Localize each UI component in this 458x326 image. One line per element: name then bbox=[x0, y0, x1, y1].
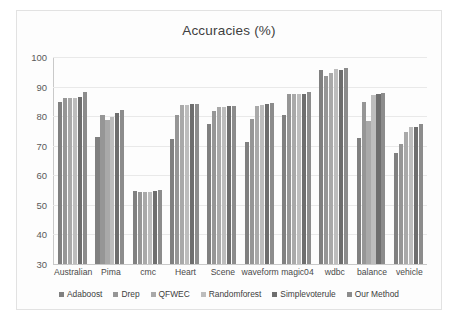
legend-swatch-icon bbox=[347, 292, 352, 297]
bar bbox=[357, 138, 361, 264]
bar bbox=[232, 106, 236, 264]
bar bbox=[344, 68, 348, 264]
legend-label: Simplevoterule bbox=[280, 289, 335, 299]
legend-label: Randomforest bbox=[209, 289, 262, 299]
bar bbox=[371, 95, 375, 264]
legend-item-drep[interactable]: Drep bbox=[113, 289, 139, 299]
bar bbox=[58, 102, 62, 264]
bar bbox=[414, 127, 418, 264]
bar bbox=[138, 192, 142, 264]
legend-swatch-icon bbox=[151, 292, 156, 297]
bar-group-wdbc bbox=[315, 57, 352, 264]
gridline-30: 30 bbox=[53, 264, 427, 265]
bar bbox=[297, 94, 301, 264]
x-label-cmc: cmc bbox=[130, 267, 167, 277]
legend-item-qfwec[interactable]: QFWEC bbox=[151, 289, 190, 299]
bar-groups bbox=[54, 57, 427, 264]
bar bbox=[366, 121, 370, 264]
y-tick-label-70: 70 bbox=[36, 140, 47, 151]
legend-label: Adaboost bbox=[67, 289, 102, 299]
bar bbox=[302, 94, 306, 264]
bar bbox=[83, 92, 87, 264]
bar bbox=[399, 144, 403, 264]
bar-group-heart bbox=[166, 57, 203, 264]
bar bbox=[73, 98, 77, 264]
chart-legend: AdaboostDrepQFWECRandomforestSimplevoter… bbox=[17, 289, 441, 299]
bar bbox=[153, 191, 157, 264]
bar bbox=[217, 107, 221, 264]
x-label-pima: Pima bbox=[92, 267, 129, 277]
legend-label: QFWEC bbox=[159, 289, 190, 299]
x-label-balance: balance bbox=[353, 267, 390, 277]
bar bbox=[175, 115, 179, 264]
bar bbox=[329, 73, 333, 264]
bar bbox=[381, 93, 385, 264]
legend-label: Our Method bbox=[355, 289, 399, 299]
y-tick-label-30: 30 bbox=[36, 259, 47, 270]
bar bbox=[143, 192, 147, 264]
bar bbox=[270, 103, 274, 264]
bar bbox=[190, 104, 194, 264]
legend-item-randomforest[interactable]: Randomforest bbox=[201, 289, 262, 299]
bar bbox=[105, 120, 109, 264]
bar bbox=[282, 115, 286, 264]
bar-group-pima bbox=[91, 57, 128, 264]
y-tick-label-100: 100 bbox=[31, 52, 47, 63]
bar bbox=[212, 111, 216, 264]
bar bbox=[68, 98, 72, 264]
bar bbox=[409, 127, 413, 264]
bar-group-australian bbox=[54, 57, 91, 264]
bar-group-balance bbox=[352, 57, 389, 264]
bar bbox=[250, 119, 254, 264]
bar bbox=[334, 69, 338, 264]
legend-swatch-icon bbox=[113, 292, 118, 297]
bar bbox=[78, 97, 82, 264]
x-label-heart: Heart bbox=[167, 267, 204, 277]
chart-title: Accuracies (%) bbox=[17, 23, 441, 38]
legend-swatch-icon bbox=[59, 292, 64, 297]
legend-item-adaboost[interactable]: Adaboost bbox=[59, 289, 102, 299]
bar bbox=[207, 124, 211, 264]
y-tick-label-60: 60 bbox=[36, 170, 47, 181]
bar bbox=[95, 137, 99, 264]
bar bbox=[133, 191, 137, 264]
bar bbox=[319, 70, 323, 264]
x-label-magic04: magic04 bbox=[279, 267, 316, 277]
bar bbox=[307, 92, 311, 264]
y-tick-label-50: 50 bbox=[36, 199, 47, 210]
bar bbox=[222, 107, 226, 264]
x-label-waveform: waveform bbox=[241, 267, 278, 277]
x-label-vehicle: vehicle bbox=[391, 267, 428, 277]
bar bbox=[394, 153, 398, 264]
bar bbox=[419, 124, 423, 264]
plot-area: 10090807060504030 bbox=[53, 57, 427, 264]
bar bbox=[324, 76, 328, 264]
bar-group-vehicle bbox=[390, 57, 427, 264]
bar bbox=[292, 94, 296, 264]
bar bbox=[110, 117, 114, 264]
bar bbox=[120, 110, 124, 264]
bar-group-waveform bbox=[240, 57, 277, 264]
bar-group-magic04 bbox=[278, 57, 315, 264]
bar bbox=[227, 106, 231, 264]
bar bbox=[260, 105, 264, 264]
x-label-australian: Australian bbox=[54, 267, 92, 277]
y-tick-label-90: 90 bbox=[36, 81, 47, 92]
chart-container: Accuracies (%) 10090807060504030 Austral… bbox=[16, 10, 442, 310]
bar bbox=[185, 105, 189, 264]
x-label-scene: Scene bbox=[204, 267, 241, 277]
legend-swatch-icon bbox=[272, 292, 277, 297]
bar bbox=[255, 106, 259, 264]
bar bbox=[265, 104, 269, 264]
bar bbox=[339, 70, 343, 264]
bar bbox=[170, 139, 174, 264]
bar bbox=[362, 102, 366, 264]
legend-item-simplevoterule[interactable]: Simplevoterule bbox=[272, 289, 335, 299]
bar bbox=[100, 115, 104, 264]
y-tick-label-80: 80 bbox=[36, 111, 47, 122]
bar-group-cmc bbox=[129, 57, 166, 264]
bar bbox=[245, 142, 249, 264]
legend-label: Drep bbox=[121, 289, 139, 299]
x-axis-labels: AustralianPimacmcHeartScenewaveformmagic… bbox=[54, 267, 428, 277]
legend-item-our-method[interactable]: Our Method bbox=[347, 289, 399, 299]
